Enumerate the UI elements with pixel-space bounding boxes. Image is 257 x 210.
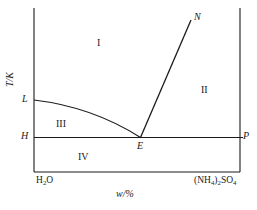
region-label-three: III [56,119,66,129]
salt-formula-sub1: 4 [211,179,214,186]
x-axis-title: w/% [116,189,134,199]
salt-liquidus-line [141,20,192,138]
region-label-four: IV [78,152,89,162]
endpoint-label-ammonium-sulfate: (NH4)2SO4 [194,176,236,186]
endpoint-label-water: H2O [36,176,53,186]
point-label-N: N [194,12,201,22]
point-label-H: H [21,131,28,141]
point-label-L: L [22,94,28,104]
water-formula-head: H [36,175,43,185]
salt-formula-sub2: 2 [217,179,220,186]
y-axis-title-text: T/K [5,72,15,87]
water-formula-sub: 2 [43,179,46,186]
point-label-E: E [137,141,143,151]
water-formula-tail: O [46,175,53,185]
region-label-one: I [97,38,100,48]
y-axis-title: T/K [5,57,15,72]
salt-formula-sub3: 4 [233,179,236,186]
salt-formula-open: (NH [194,175,211,185]
ice-liquidus-curve [34,100,141,138]
point-label-P: P [243,131,249,141]
phase-diagram-figure: T/K w/% L H P N E I II III IV H2O (NH4)2… [0,0,257,210]
salt-formula-tail: SO [221,175,233,185]
region-label-two: II [201,85,208,95]
